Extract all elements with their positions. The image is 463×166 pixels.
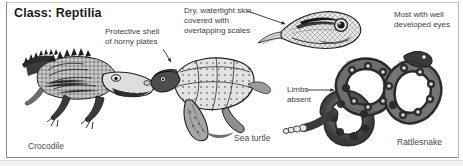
reptilia-figure-panel: Class: Reptilia Protective shell of horn… [0, 0, 463, 166]
panel-border-top [6, 2, 458, 3]
rattle-segments [283, 125, 307, 134]
panel-border-right [458, 2, 459, 158]
panel-bottom-band [0, 160, 463, 166]
crocodile-illustration [22, 48, 154, 129]
panel-border-left [6, 2, 7, 158]
caption-crocodile: Crocodile [28, 141, 64, 151]
caption-rattlesnake: Rattlesnake [397, 137, 442, 147]
leader-protective-shell [163, 49, 171, 62]
annotation-dry-skin: Dry, watertight skin covered with overla… [184, 6, 251, 36]
leader-dry-skin [247, 11, 285, 24]
sea-turtle-illustration [151, 57, 270, 141]
panel-border-bottom [6, 157, 458, 158]
figure-title: Class: Reptilia [14, 6, 102, 20]
caption-sea-turtle: Sea turtle [234, 133, 270, 143]
annotation-limbs-absent: Limbs absent [287, 85, 311, 105]
annotation-developed-eyes: Most with well developed eyes [394, 10, 450, 30]
annotation-protective-shell: Protective shell of horny plates [105, 27, 159, 47]
snake-head-illustration [258, 12, 361, 49]
